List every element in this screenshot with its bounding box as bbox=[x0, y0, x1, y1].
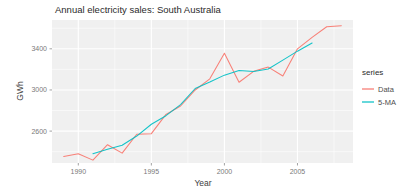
y-tick-label: 2600 bbox=[31, 128, 47, 135]
x-tick-label: 1995 bbox=[144, 168, 160, 175]
chart-container: Annual electricity sales: South Australi… bbox=[0, 0, 400, 190]
line-chart: Annual electricity sales: South Australi… bbox=[0, 0, 400, 190]
y-tick-label: 3000 bbox=[31, 86, 47, 93]
x-tick-label: 2005 bbox=[290, 168, 306, 175]
legend-label: 5-MA bbox=[378, 98, 396, 107]
x-axis-title: Year bbox=[194, 178, 211, 188]
x-tick-label: 2000 bbox=[217, 168, 233, 175]
legend-label: Data bbox=[378, 85, 395, 94]
x-tick-label: 1990 bbox=[71, 168, 87, 175]
y-tick-label: 3400 bbox=[31, 45, 47, 52]
plot-panel bbox=[52, 20, 353, 163]
chart-title: Annual electricity sales: South Australi… bbox=[55, 4, 222, 15]
legend-title: series bbox=[362, 68, 383, 77]
y-axis-title: GWh bbox=[15, 81, 25, 101]
